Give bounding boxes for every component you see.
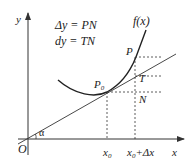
point-n-label: N [138,93,147,105]
delta-y-equation: Δy = PN [54,18,98,32]
point-p-label: P [125,45,133,57]
point-p0-label: P0 [93,78,105,92]
dy-equation: dy = TN [55,34,96,48]
function-label: f(x) [133,14,150,28]
x0-tick-label: x0 [102,146,112,160]
origin-label: O [18,142,27,156]
angle-label: α [39,127,45,138]
derivative-diagram: Δy = PN dy = TN f(x) y x O α P0 P T N x0… [0,0,194,163]
y-axis-label: y [15,13,21,25]
x-axis-label: x [171,146,177,158]
x0-dx-tick-label: x0+Δx [126,146,154,160]
angle-arc [36,134,37,139]
point-t-label: T [139,72,146,84]
